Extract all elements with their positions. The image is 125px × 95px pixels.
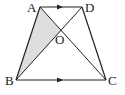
label-a: A [27,0,37,15]
diagonal-ac [40,7,106,80]
label-b: B [5,73,14,88]
label-c: C [108,73,117,88]
parallel-arrow-icon-ad [57,5,63,10]
label-d: D [85,0,94,15]
side-dc [82,7,106,80]
trapezoid-diagram: A D O B C [0,0,125,95]
parallel-arrow-icon-bc [57,78,63,83]
label-o: O [55,32,64,47]
